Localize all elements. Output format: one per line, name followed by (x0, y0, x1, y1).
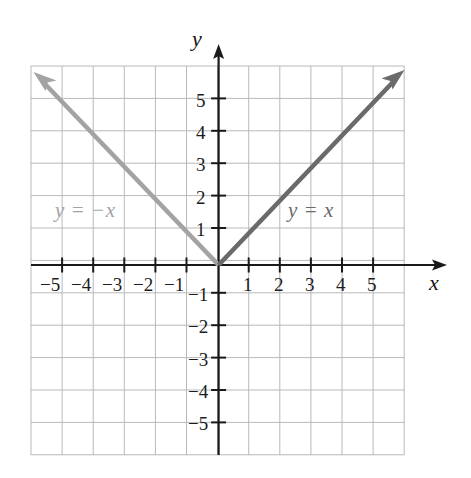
label-y-equals-x: y = x (288, 200, 334, 221)
x-tick-label--4: −4 (71, 275, 91, 294)
y-tick-label-4: 4 (196, 123, 206, 142)
y-tick-label--3: −3 (188, 350, 208, 369)
x-tick-label--2: −2 (133, 275, 153, 294)
x-tick-label-4: 4 (336, 275, 346, 294)
y-tick-label-5: 5 (196, 91, 206, 110)
y-tick-label--4: −4 (188, 382, 208, 401)
y-tick-label-2: 2 (196, 188, 206, 207)
label-y-equals-negative-x: y = −x (55, 200, 115, 221)
x-tick-label-3: 3 (305, 275, 315, 294)
curve-y-equals-x (219, 70, 405, 265)
y-axis-name: y (192, 28, 202, 50)
x-tick-label--3: −3 (102, 275, 122, 294)
y-tick-label-3: 3 (196, 155, 206, 174)
y-tick-label-1: 1 (196, 220, 206, 239)
curve-y-equals-negative-x (34, 72, 219, 265)
y-tick-label--2: −2 (188, 317, 208, 336)
x-tick-label-1: 1 (243, 275, 253, 294)
y-tick-label--5: −5 (188, 414, 208, 433)
x-tick-label-5: 5 (367, 275, 377, 294)
coordinate-plane-svg (0, 0, 471, 478)
x-tick-label--1: −1 (164, 275, 184, 294)
y-tick-label--1: −1 (188, 285, 208, 304)
x-tick-label--5: −5 (40, 275, 60, 294)
graph-figure: −5 −4 −3 −2 −1 1 2 3 4 5 5 4 3 2 1 −1 −2… (0, 0, 471, 478)
x-tick-label-2: 2 (274, 275, 284, 294)
x-axis-name: x (429, 272, 439, 294)
